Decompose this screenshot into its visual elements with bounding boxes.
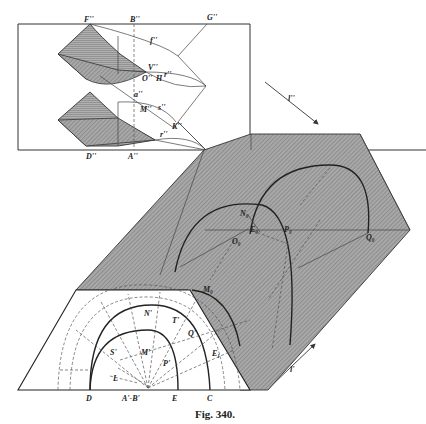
elevation-view: F'' B'' G'' f'' V'' O'' H r'' a'' M'' s'…: [18, 13, 426, 161]
arrow-upper: [265, 82, 318, 124]
label-G: G'': [207, 13, 218, 22]
label-D: D'': [85, 152, 97, 161]
label-l-upper: l'': [288, 94, 295, 103]
label-r2: r'': [160, 130, 168, 139]
label-N0: N₀: [239, 209, 249, 218]
label-P: P': [163, 359, 171, 368]
plan-view: N₀ E₀ O₀ P₀ Q₀ M₀ N' T' Q' S' M' P' E₁ L…: [18, 134, 410, 403]
label-L: L: [112, 374, 118, 383]
label-AB: A'-B': [121, 394, 141, 403]
label-f: f'': [150, 36, 158, 45]
label-M: M'': [139, 105, 152, 114]
label-a: a'': [134, 90, 143, 99]
figure-caption: Fig. 340.: [195, 408, 235, 420]
label-K: K'': [171, 122, 183, 131]
label-A: A'': [127, 152, 139, 161]
label-V: V'': [148, 63, 159, 72]
label-s: s'': [157, 103, 166, 112]
label-E1: E₁: [211, 349, 220, 358]
label-C-plan: C: [207, 394, 213, 403]
figure-340-diagram: F'' B'' G'' f'' V'' O'' H r'' a'' M'' s'…: [0, 0, 426, 424]
label-M: M': [140, 348, 151, 357]
label-l-lower: l': [290, 365, 295, 374]
label-N: N': [143, 309, 153, 318]
label-P0: P₀: [284, 225, 292, 234]
label-r1: r'': [164, 70, 172, 79]
label-S: S': [110, 348, 117, 357]
label-Q0: Q₀: [366, 233, 375, 242]
label-Q: Q': [188, 329, 197, 338]
label-M0: M₀: [202, 285, 213, 294]
label-D-plan: D: [85, 394, 92, 403]
label-B: B'': [129, 15, 141, 24]
label-T: T': [172, 316, 180, 325]
label-F: F'': [83, 15, 95, 24]
label-E0: E₀: [249, 225, 258, 234]
label-O: O'': [142, 74, 153, 83]
label-H: H: [155, 74, 163, 83]
label-E-plan: E: [171, 394, 177, 403]
label-O0: O₀: [232, 237, 241, 246]
